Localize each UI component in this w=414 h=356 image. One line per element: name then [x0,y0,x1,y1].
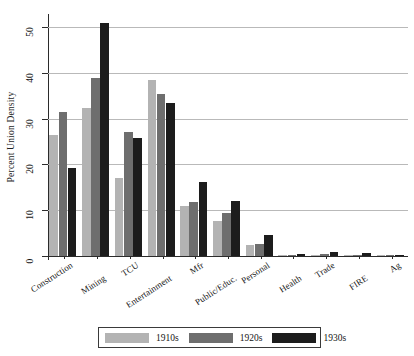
x-tick-label: TCU [119,260,140,278]
bar [231,201,240,256]
legend-swatch [105,333,149,343]
bar [255,244,264,256]
x-tick-label: Construction [29,260,74,294]
y-tick-label: 10 [20,204,40,216]
x-tick-label: Mining [79,273,107,296]
bar [246,245,255,256]
bar [91,78,100,257]
x-axis-labels: ConstructionMiningTCUEntertainmentMfrPub… [0,256,414,316]
legend-label: 1920s [240,333,263,343]
bar [100,23,109,256]
legend-item: 1920s [189,333,263,343]
bar [148,80,157,256]
y-tick-label: 50 [20,21,40,33]
legend-item: 1930s [272,333,346,343]
bar [115,178,124,256]
legend-label: 1910s [156,333,179,343]
bar [189,202,198,256]
x-tick-label: FIRE [347,273,369,292]
legend-item: 1910s [105,333,179,343]
bar [166,103,175,256]
bars-area [48,18,408,256]
x-tick-label: Health [278,273,304,295]
legend: 1910s1920s1930s [98,327,321,348]
bar [213,221,222,256]
x-tick-label: Personal [239,260,271,286]
bar [157,94,166,256]
bar [180,206,189,256]
y-tick-label: 40 [20,67,40,79]
bar [68,168,77,256]
y-axis-title-text: Percent Union Density [6,92,16,183]
legend-label: 1930s [323,333,346,343]
bar [133,138,142,256]
x-tick-label: Trade [313,260,336,280]
bar [124,132,133,256]
bar [59,112,68,256]
bar [222,213,231,256]
bar [82,108,91,256]
y-tick-label: 30 [20,113,40,125]
x-tick-label: Ag [387,260,402,274]
y-axis-title: Percent Union Density [2,18,20,256]
legend-swatch [272,333,316,343]
bar [49,135,58,256]
legend-swatch [189,333,233,343]
y-tick-label: 20 [20,158,40,170]
bar-chart: Percent Union Density 01020304050 Constr… [0,0,414,356]
x-tick-label: Mfr [188,260,205,276]
x-tick-label: Entertainment [124,273,173,310]
bar [199,182,208,256]
bar [264,235,273,256]
x-tick-label: Public/Educ. [193,273,238,307]
